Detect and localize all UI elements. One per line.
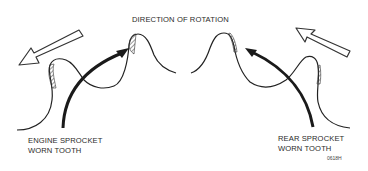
- engine-sprocket-label-line1: ENGINE SPROCKET: [28, 136, 103, 146]
- rear-sprocket-profile: [191, 33, 350, 128]
- figure-code: 0618H: [327, 155, 342, 161]
- engine-sprocket-top-hatch: [129, 34, 136, 54]
- engine-worn-tooth-hatch: [49, 64, 56, 88]
- right-rotation-arrow-icon: [296, 28, 350, 57]
- engine-sprocket-label-line2: WORN TOOTH: [28, 146, 103, 156]
- rear-worn-tooth-hatch: [228, 33, 237, 52]
- engine-sprocket-profile: [17, 34, 176, 130]
- rear-sprocket-side-hatch: [317, 65, 321, 84]
- engine-worn-tooth-pointer-icon: [63, 48, 129, 128]
- rear-sprocket-label-line1: REAR SPROCKET: [278, 134, 344, 144]
- engine-sprocket-label: ENGINE SPROCKET WORN TOOTH: [28, 136, 103, 155]
- left-rotation-arrow-icon: [19, 30, 83, 65]
- diagram-title: DIRECTION OF ROTATION: [132, 15, 229, 25]
- rear-sprocket-label-line2: WORN TOOTH: [278, 144, 344, 154]
- rear-sprocket-label: REAR SPROCKET WORN TOOTH: [278, 134, 344, 153]
